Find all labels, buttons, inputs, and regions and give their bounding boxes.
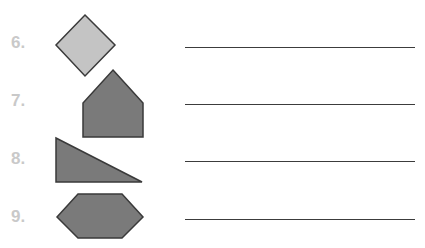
answer-line-8[interactable] — [185, 161, 415, 162]
answer-line-6[interactable] — [185, 47, 415, 48]
shapes-layer — [0, 0, 425, 248]
answer-line-7[interactable] — [185, 104, 415, 105]
right-triangle-icon — [56, 138, 142, 182]
pentagon-icon — [83, 70, 143, 137]
hexagon-icon — [57, 194, 143, 238]
answer-line-9[interactable] — [185, 219, 415, 220]
diamond-icon — [56, 15, 115, 76]
